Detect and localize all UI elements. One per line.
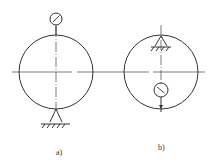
figure-b: b)	[124, 25, 198, 152]
dial-gauge-icon	[154, 83, 168, 112]
figure-a: a)	[19, 13, 93, 157]
diagram-canvas: a) b)	[0, 0, 213, 165]
figure-label-b: b)	[158, 143, 165, 152]
figure-label-a: a)	[56, 148, 63, 157]
fixed-support-icon	[41, 109, 70, 128]
dial-gauge-icon	[50, 13, 62, 35]
